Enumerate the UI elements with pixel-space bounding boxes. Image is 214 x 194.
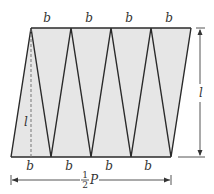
top-label-b-2: b — [85, 11, 93, 25]
inner-height-label: l — [24, 115, 28, 129]
arrow-right-icon — [164, 178, 170, 183]
perimeter-variable: P — [89, 173, 99, 187]
parallelogram-diagram: b b b b b b b b l l 1 2 P — [0, 0, 214, 194]
arrow-up-icon — [198, 29, 203, 35]
right-height-label: l — [199, 86, 203, 100]
fraction-denominator: 2 — [82, 180, 88, 190]
top-label-b-4: b — [165, 11, 173, 25]
arrow-down-icon — [198, 150, 203, 156]
top-label-b-3: b — [125, 11, 133, 25]
fraction-numerator: 1 — [82, 170, 88, 180]
bottom-label-b-3: b — [105, 159, 113, 173]
bottom-label-b-1: b — [26, 159, 34, 173]
arrow-left-icon — [12, 178, 18, 183]
top-label-b-1: b — [43, 11, 51, 25]
bottom-label-b-4: b — [144, 159, 152, 173]
bottom-label-b-2: b — [65, 159, 73, 173]
